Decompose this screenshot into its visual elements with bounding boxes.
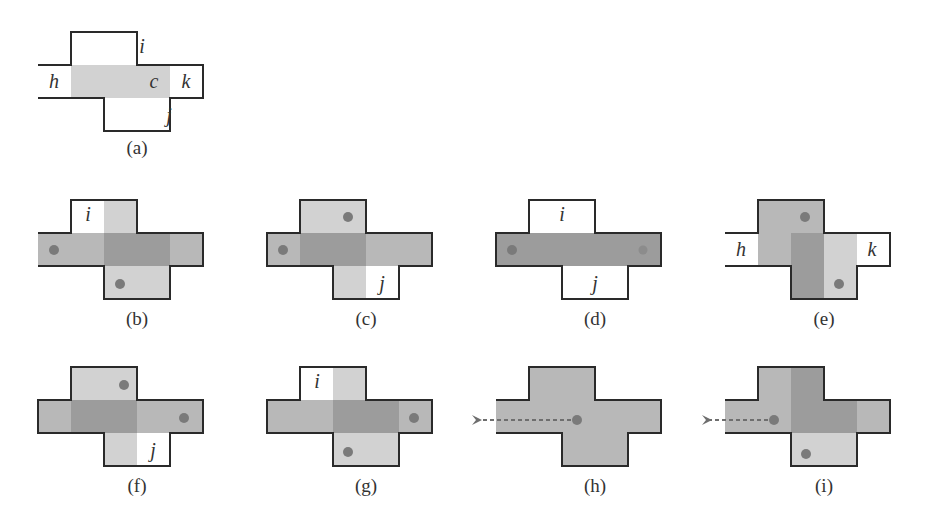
cell-mid_3	[137, 233, 171, 267]
cell-label-i: i	[139, 35, 145, 57]
cell-mid_1	[71, 233, 105, 267]
cell-bot_l	[333, 266, 367, 300]
panel-caption: (f)	[128, 475, 147, 497]
point-marker-icon	[49, 245, 59, 255]
cell-bot_l	[562, 433, 596, 467]
panel-a: ihckj(a)	[38, 32, 204, 159]
point-marker-icon	[801, 449, 811, 459]
cell-mid_3	[824, 400, 858, 434]
panel-i: (i)	[710, 367, 891, 497]
cell-top_r	[104, 200, 138, 234]
grid-region-diagram: ihckj(a)i(b)j(c)ij(d)hk(e)j(f)i(g)(h)(i)	[0, 0, 927, 531]
cell-label-i: i	[559, 203, 565, 225]
panel-caption: (h)	[584, 475, 606, 497]
cell-mid_2	[104, 400, 138, 434]
cell-mid_2	[104, 233, 138, 267]
cell-mid_3	[366, 233, 400, 267]
cell-top_l	[758, 200, 792, 234]
cell-mid_1	[529, 400, 563, 434]
cell-mid_1	[71, 65, 105, 99]
panel-e: hk(e)	[725, 200, 891, 330]
point-marker-icon	[572, 415, 582, 425]
point-marker-icon	[119, 380, 129, 390]
cell-bot_l	[104, 433, 138, 467]
cell-mid_3	[824, 233, 858, 267]
cell-mid_2	[333, 233, 367, 267]
cell-mid_3	[595, 400, 629, 434]
cell-mid_4	[628, 400, 662, 434]
panel-caption: (e)	[813, 308, 834, 330]
point-marker-icon	[769, 415, 779, 425]
cell-label-i: i	[85, 203, 91, 225]
cell-bot_l	[562, 266, 596, 300]
panel-caption: (b)	[126, 308, 148, 330]
cell-mid_3	[366, 400, 400, 434]
cell-mid_2	[562, 233, 596, 267]
cell-mid_2	[333, 400, 367, 434]
panel-g: i(g)	[267, 367, 433, 497]
cell-bot_r	[824, 433, 858, 467]
cell-mid_1	[300, 233, 334, 267]
cell-mid_2	[104, 65, 138, 99]
cell-top_l	[758, 367, 792, 401]
point-marker-icon	[409, 413, 419, 423]
cell-top_r	[791, 367, 825, 401]
cell-top_r	[333, 367, 367, 401]
cell-label-h: h	[49, 70, 59, 92]
cell-top_r	[562, 200, 596, 234]
cell-top_r	[104, 32, 138, 66]
cell-top_l	[529, 200, 563, 234]
cell-label-c: c	[150, 70, 159, 92]
cell-mid_1	[529, 233, 563, 267]
panel-caption: (g)	[355, 475, 377, 497]
cell-label-k: k	[182, 70, 192, 92]
point-marker-icon	[179, 413, 189, 423]
point-marker-icon	[507, 245, 517, 255]
point-marker-icon	[278, 245, 288, 255]
point-marker-icon	[343, 447, 353, 457]
cell-top_r	[562, 367, 596, 401]
cell-label-k: k	[868, 238, 878, 260]
point-marker-icon	[834, 279, 844, 289]
cell-bot_l	[104, 98, 138, 132]
cell-bot_r	[595, 266, 629, 300]
point-marker-icon	[800, 212, 810, 222]
panel-caption: (a)	[126, 137, 147, 159]
cell-mid_0	[496, 400, 530, 434]
cell-top_l	[71, 367, 105, 401]
cell-mid_2	[791, 400, 825, 434]
cell-mid_2	[791, 233, 825, 267]
point-marker-icon	[343, 212, 353, 222]
cell-label-i: i	[314, 370, 320, 392]
cell-top_l	[71, 32, 105, 66]
panel-caption: (i)	[815, 475, 833, 497]
cell-bot_r	[137, 266, 171, 300]
cell-mid_4	[170, 233, 204, 267]
cell-mid_0	[38, 400, 72, 434]
cell-mid_0	[725, 400, 759, 434]
panel-c: j(c)	[267, 200, 433, 330]
cell-mid_3	[595, 233, 629, 267]
panel-d: ij(d)	[496, 200, 662, 330]
point-marker-icon	[115, 279, 125, 289]
panel-f: j(f)	[38, 367, 204, 497]
cell-mid_1	[300, 400, 334, 434]
cell-mid_4	[399, 233, 433, 267]
cell-mid_0	[267, 400, 301, 434]
cell-mid_1	[758, 233, 792, 267]
cell-bot_r	[366, 433, 400, 467]
cell-bot_r	[595, 433, 629, 467]
cell-label-h: h	[736, 238, 746, 260]
cell-mid_4	[857, 400, 891, 434]
panel-caption: (d)	[584, 308, 606, 330]
cell-top_l	[300, 200, 334, 234]
panel-h: (h)	[480, 367, 662, 497]
cell-top_l	[529, 367, 563, 401]
point-marker-icon	[639, 246, 648, 255]
panel-b: i(b)	[38, 200, 204, 330]
cell-mid_1	[71, 400, 105, 434]
cell-mid_3	[137, 400, 171, 434]
cell-bot_l	[791, 266, 825, 300]
panel-caption: (c)	[355, 308, 376, 330]
